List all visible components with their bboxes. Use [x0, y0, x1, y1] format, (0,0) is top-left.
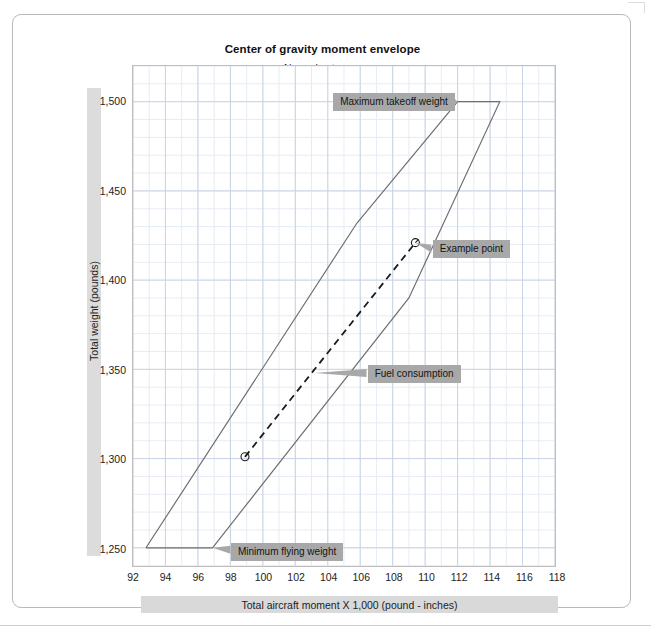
x-axis-tick-labels: 92949698100102104106108110112114116118 — [132, 571, 558, 589]
x-tick-label: 110 — [410, 571, 444, 583]
y-tick-label: 1,450 — [80, 185, 126, 197]
data-series-group — [146, 102, 500, 548]
x-axis-title: Total aircraft moment X 1,000 (pound - i… — [242, 599, 458, 611]
page-divider-rule — [0, 625, 651, 626]
x-tick-label: 112 — [442, 571, 476, 583]
x-tick-label: 102 — [279, 571, 313, 583]
x-tick-label: 100 — [246, 571, 280, 583]
x-tick-label: 94 — [149, 571, 183, 583]
x-tick-label: 118 — [540, 571, 574, 583]
callout-minimum-flying-weight: Minimum flying weight — [231, 543, 343, 561]
callout-example-point: Example point — [433, 240, 510, 258]
y-tick-label: 1,250 — [80, 543, 126, 555]
y-tick-label: 1,500 — [80, 95, 126, 107]
x-tick-label: 116 — [507, 571, 541, 583]
x-tick-label: 104 — [312, 571, 346, 583]
x-axis-title-band: Total aircraft moment X 1,000 (pound - i… — [141, 596, 558, 613]
plot-canvas — [133, 66, 555, 566]
page-corner-mark — [628, 2, 645, 13]
x-tick-label: 98 — [214, 571, 248, 583]
callout-fuel-consumption: Fuel consumption — [368, 365, 461, 383]
y-axis-tick-labels: 1,2501,3001,3501,4001,4501,500 — [70, 65, 126, 567]
figure-page: Center of gravity moment envelope Normal… — [0, 0, 651, 641]
x-tick-label: 96 — [181, 571, 215, 583]
minor-gridlines — [133, 66, 555, 566]
x-tick-label: 108 — [377, 571, 411, 583]
y-tick-label: 1,300 — [80, 453, 126, 465]
y-tick-label: 1,350 — [80, 364, 126, 376]
chart-title: Center of gravity moment envelope — [13, 43, 632, 55]
callout-maximum-takeoff-weight: Maximum takeoff weight — [333, 93, 455, 111]
x-tick-label: 114 — [475, 571, 509, 583]
figure-frame: Center of gravity moment envelope Normal… — [12, 14, 631, 608]
y-tick-label: 1,400 — [80, 274, 126, 286]
annotation-leader-lines — [213, 98, 458, 554]
x-tick-label: 92 — [116, 571, 150, 583]
x-tick-label: 106 — [344, 571, 378, 583]
plot-area: Maximum takeoff weight Example point Fue… — [132, 65, 556, 567]
